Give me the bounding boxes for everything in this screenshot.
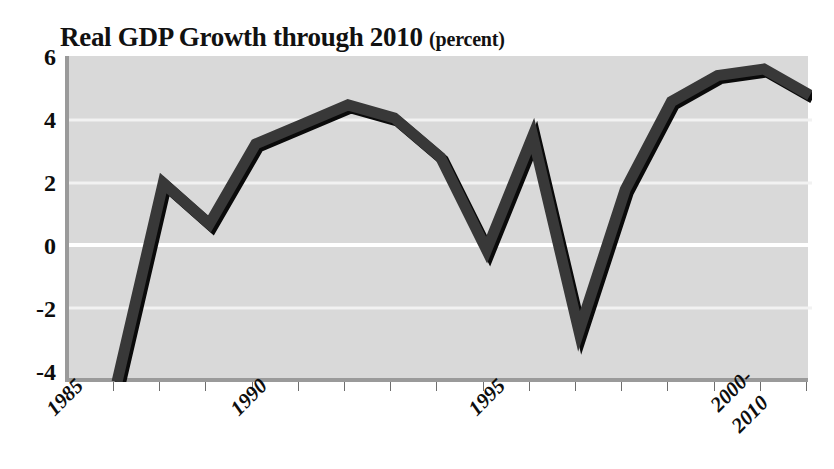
x-tick-1990: 1990 [226, 374, 271, 419]
gdp-growth-chart: Real GDP Growth through 2010 (percent) 6… [0, 0, 834, 469]
x-tick-1995: 1995 [464, 374, 509, 419]
x-tick-1985: 1985 [42, 374, 87, 419]
x-axis-labels: 1985 1990 1995 2000- 2010 [0, 0, 834, 469]
